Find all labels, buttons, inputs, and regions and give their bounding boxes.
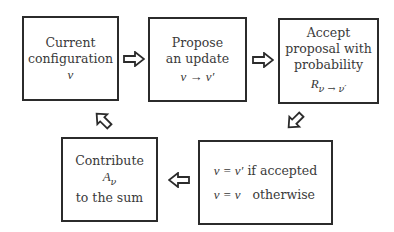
node-label: configuration [28,51,113,67]
node-label: Contribute [75,153,144,169]
math-main: A [103,169,111,184]
node-label: proposal with [285,41,372,57]
node-contribute-sum: Contribute Aν to the sum [61,137,158,222]
hollow-arrow-down-left-icon [285,111,305,131]
row-text: otherwise [252,187,314,202]
node-update-configuration: ν = ν′ if accepted ν = ν otherwise [198,140,333,225]
node-label: an update [166,51,229,67]
update-rows: ν = ν′ if accepted ν = ν otherwise [214,163,318,203]
node-current-configuration: Current configuration ν [22,16,119,101]
hollow-arrow-left-icon [168,172,190,188]
node-label: Propose [172,35,223,51]
hollow-arrow-up-left-icon [93,110,113,130]
node-math: Aν [103,169,117,190]
node-math: ν [68,67,74,83]
update-row-accepted: ν = ν′ if accepted [214,163,318,179]
node-accept-proposal: Accept proposal with probability Rν → ν′ [278,18,379,104]
node-math: Rν → ν′ [311,76,347,97]
node-label: Accept [307,25,350,41]
node-label: to the sum [76,190,143,206]
hollow-arrow-right-icon [123,51,145,67]
math-subscript: ν → ν′ [319,83,347,94]
row-text: if accepted [247,163,317,178]
node-label: probability [294,57,363,73]
hollow-arrow-right-icon [252,52,274,68]
row-math: ν = ν′ [214,163,244,178]
row-math: ν = ν [214,187,241,202]
math-main: R [311,76,319,91]
node-label: Current [45,35,95,51]
update-row-otherwise: ν = ν otherwise [214,187,318,203]
node-propose-update: Propose an update ν → ν′ [148,17,247,102]
math-subscript: ν [111,176,117,187]
node-math: ν → ν′ [181,69,215,85]
